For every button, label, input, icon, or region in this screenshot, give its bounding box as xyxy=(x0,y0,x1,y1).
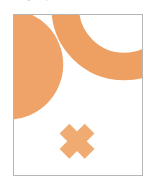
image-frame xyxy=(13,14,143,176)
clipped-text-strip: ncoding nbsp:text arc circle xyxy=(0,0,157,8)
clipped-text-line: ncoding nbsp:text arc circle xyxy=(4,0,154,1)
shapes-illustration xyxy=(14,15,142,175)
